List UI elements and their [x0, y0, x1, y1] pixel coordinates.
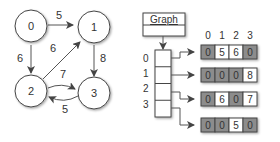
node-0: 0 — [15, 10, 47, 42]
matrix-cell-value: 0 — [205, 120, 211, 131]
matrix-cell-value: 0 — [219, 120, 225, 131]
node-label: 0 — [28, 20, 34, 32]
matrix-cell-value: 5 — [233, 120, 239, 131]
node-label: 1 — [91, 21, 97, 33]
node-1: 1 — [78, 11, 110, 43]
matrix-cell-value: 0 — [205, 70, 211, 81]
weight-2-3: 7 — [60, 68, 66, 80]
weight-0-1: 5 — [56, 9, 62, 21]
matrix-cell-value: 0 — [219, 70, 225, 81]
matrix-cell-value: 0 — [205, 47, 211, 58]
col-label-2: 2 — [233, 30, 239, 41]
row-label-0: 0 — [143, 53, 149, 64]
node-2: 2 — [15, 75, 47, 107]
adjacency-matrix: 0560000806070050 — [201, 45, 257, 132]
matrix-cell-value: 0 — [233, 94, 239, 105]
node-label: 2 — [28, 85, 34, 97]
weight-3-2: 5 — [62, 103, 68, 115]
col-label-0: 0 — [205, 30, 211, 41]
col-label-3: 3 — [247, 30, 253, 41]
edge-2-3 — [48, 85, 75, 89]
class-name: Graph — [150, 14, 178, 25]
graph-diagram: 5 6 6 8 7 5 0 1 2 3 — [15, 9, 110, 115]
matrix-cell-value: 6 — [233, 47, 239, 58]
row-pointer-array — [155, 50, 171, 117]
pointer-row-0 — [171, 52, 194, 58]
node-label: 3 — [91, 87, 97, 99]
matrix-cell-value: 0 — [247, 120, 253, 131]
pointer-row-3 — [171, 108, 194, 125]
col-label-1: 1 — [219, 30, 225, 41]
matrix-cell-value: 0 — [247, 47, 253, 58]
row-label-1: 1 — [143, 68, 149, 79]
node-3: 3 — [78, 77, 110, 109]
weight-1-3: 8 — [100, 52, 106, 64]
matrix-cell-value: 6 — [219, 94, 225, 105]
edge-3-2 — [49, 96, 78, 100]
row-label-2: 2 — [143, 83, 149, 94]
weight-0-2: 6 — [17, 52, 23, 64]
weight-2-1: 6 — [50, 42, 56, 54]
matrix-cell-value: 7 — [247, 94, 253, 105]
adjacency-structure: Graph 0 1 2 3 0 1 2 3 0560000806070050 — [143, 13, 257, 132]
matrix-cell-value: 0 — [205, 94, 211, 105]
matrix-cell-value: 5 — [219, 47, 225, 58]
matrix-cell-value: 8 — [247, 70, 253, 81]
pointer-row-2 — [171, 92, 194, 99]
row-label-3: 3 — [143, 99, 149, 110]
matrix-cell-value: 0 — [233, 70, 239, 81]
diagram-canvas: 5 6 6 8 7 5 0 1 2 3 Graph — [0, 0, 280, 142]
